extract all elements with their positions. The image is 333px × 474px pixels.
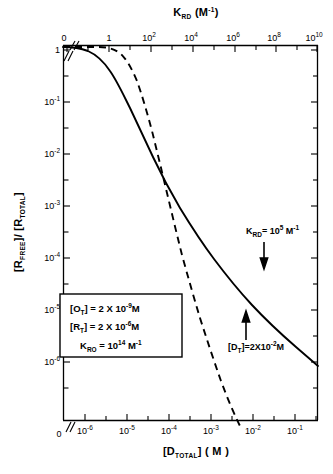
svg-text:0: 0 bbox=[56, 429, 61, 439]
svg-text:1: 1 bbox=[55, 45, 60, 55]
svg-text:10-1: 10-1 bbox=[44, 95, 60, 107]
svg-text:102: 102 bbox=[142, 31, 156, 43]
svg-text:1: 1 bbox=[106, 33, 111, 43]
bottom-axis-tick-labels: 0 10-6 10-5 10-4 10-3 10-2 10-1 bbox=[56, 424, 303, 439]
annotation-solid-curve: KRD= 105 M-1 bbox=[246, 224, 299, 269]
left-axis-title: [RFREE]/ [RTOTAL] bbox=[12, 192, 26, 272]
svg-text:[DT]=2X10-2M: [DT]=2X10-2M bbox=[228, 340, 284, 354]
svg-text:10-1: 10-1 bbox=[287, 424, 303, 436]
bottom-axis-title: [DTOTAL] ( M ) bbox=[163, 445, 229, 459]
svg-text:10-4: 10-4 bbox=[44, 251, 60, 263]
svg-text:10-6: 10-6 bbox=[77, 424, 93, 436]
bottom-axis-break-icon bbox=[66, 422, 75, 432]
top-axis-tick-labels: 0 1 102 104 106 108 1010 bbox=[61, 31, 323, 43]
svg-text:106: 106 bbox=[226, 31, 240, 43]
arrow-down-solid-icon bbox=[260, 242, 267, 269]
arrow-up-dashed-icon bbox=[242, 311, 249, 340]
svg-text:10-3: 10-3 bbox=[203, 424, 219, 436]
svg-text:10-6: 10-6 bbox=[44, 355, 60, 367]
left-axis-tick-labels: 1 10-1 10-2 10-3 10-4 10-5 10-6 bbox=[44, 45, 60, 367]
svg-text:10-3: 10-3 bbox=[44, 199, 60, 211]
bottom-axis-ticks bbox=[85, 414, 316, 421]
svg-text:KRD= 105 M-1: KRD= 105 M-1 bbox=[246, 224, 299, 238]
plot-frame bbox=[63, 45, 318, 421]
svg-text:10-2: 10-2 bbox=[44, 147, 60, 159]
parameter-box: [OT] = 2 X 10-9M [RT] = 2 X 10-6M KRO = … bbox=[60, 294, 182, 357]
scientific-plot: KRD (M-1) 0 1 102 104 106 108 1010 bbox=[0, 0, 333, 474]
svg-text:KRD (M-1): KRD (M-1) bbox=[173, 6, 218, 20]
right-axis-ticks bbox=[311, 50, 318, 388]
svg-text:[RFREE]/ [RTOTAL]: [RFREE]/ [RTOTAL] bbox=[12, 192, 26, 272]
svg-text:108: 108 bbox=[267, 31, 281, 43]
figure-container: KRD (M-1) 0 1 102 104 106 108 1010 bbox=[0, 0, 333, 474]
svg-text:[DTOTAL] ( M ): [DTOTAL] ( M ) bbox=[163, 445, 229, 459]
svg-text:0: 0 bbox=[61, 33, 66, 43]
svg-text:10-5: 10-5 bbox=[44, 303, 60, 315]
left-axis-break-icon bbox=[64, 51, 73, 61]
svg-text:10-5: 10-5 bbox=[119, 424, 135, 436]
svg-text:1010: 1010 bbox=[305, 31, 323, 43]
svg-text:104: 104 bbox=[184, 31, 198, 43]
data-curves bbox=[63, 47, 318, 428]
svg-text:10-2: 10-2 bbox=[245, 424, 261, 436]
svg-text:10-4: 10-4 bbox=[161, 424, 177, 436]
curve-dashed-dt bbox=[63, 47, 241, 428]
annotation-dashed-curve: [DT]=2X10-2M bbox=[228, 311, 284, 354]
top-axis-title: KRD (M-1) bbox=[173, 6, 218, 20]
